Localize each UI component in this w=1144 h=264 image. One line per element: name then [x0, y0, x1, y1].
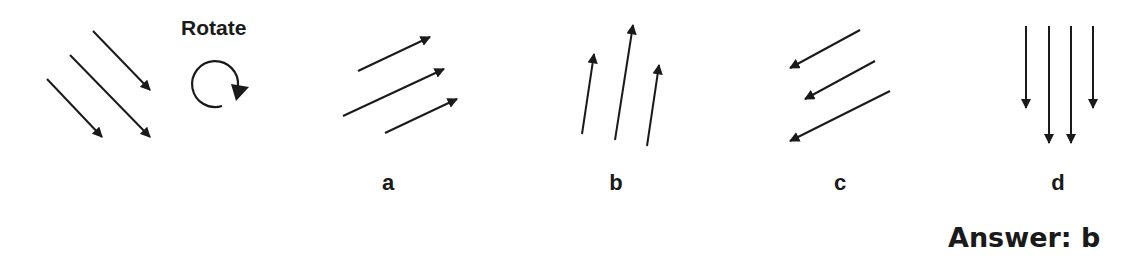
option-c-arrows — [790, 30, 890, 141]
option-arrow — [790, 30, 860, 68]
option-a-arrows — [343, 37, 457, 133]
option-arrow — [582, 54, 594, 134]
option-label-b: b — [601, 170, 631, 196]
option-label-c: c — [825, 170, 855, 196]
answer-text: Answer: b — [948, 222, 1100, 253]
option-arrow — [805, 61, 875, 99]
stimulus-arrow — [70, 55, 150, 137]
option-b-arrows — [582, 25, 659, 146]
stimulus-arrow — [47, 79, 102, 137]
option-arrow — [615, 25, 633, 140]
rotate-clockwise-icon — [192, 61, 249, 107]
option-arrow — [343, 69, 444, 116]
option-label-a: a — [373, 170, 403, 196]
stimulus-arrow — [93, 31, 150, 90]
option-arrow — [358, 37, 430, 71]
option-label-d: d — [1043, 170, 1073, 196]
option-arrow — [647, 65, 659, 146]
option-d-arrows — [1026, 26, 1093, 143]
option-arrow — [385, 99, 457, 133]
answer-options — [343, 25, 1093, 146]
rotate-instruction: Rotate — [181, 16, 246, 40]
stimulus-arrows — [47, 31, 150, 137]
